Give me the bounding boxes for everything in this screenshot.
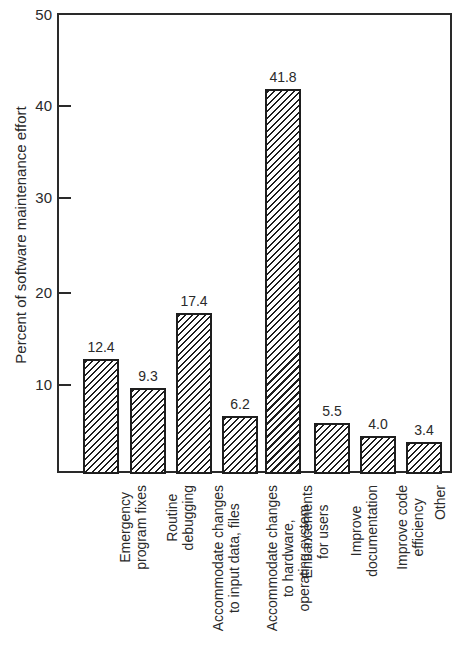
- bar-value-label: 41.8: [258, 69, 308, 85]
- x-axis-label-line: Enhancements: [299, 485, 315, 578]
- bar-value-label: 6.2: [215, 396, 265, 412]
- x-axis-label-line: to hardware,: [280, 485, 296, 631]
- bar-value-label: 5.5: [307, 403, 357, 419]
- x-axis-label-text: Emergencyprogram fixes: [117, 485, 149, 570]
- x-axis-label-line: Routine: [164, 485, 180, 550]
- x-axis-label-text: Enhancementsfor users: [299, 485, 331, 578]
- bar: [130, 388, 166, 474]
- y-axis-label: Percent of software maintenance effort: [12, 106, 29, 363]
- x-axis-label-line: Improve: [348, 485, 364, 577]
- bar-chart: Percent of software maintenance effort 1…: [0, 0, 469, 657]
- x-axis-label-line: Other: [432, 485, 448, 520]
- x-axis-label-text: Routinedebugging: [164, 485, 196, 550]
- y-tick-label: 20: [22, 285, 52, 301]
- y-tick-label: 50: [22, 7, 52, 23]
- x-axis-label-line: Emergency: [117, 485, 133, 570]
- y-tick-label: 40: [22, 98, 52, 114]
- x-axis-label-text: Accommodate changesto input data, files: [210, 485, 242, 631]
- x-axis-label-line: efficiency: [410, 485, 426, 570]
- x-axis-label-text: Other: [432, 485, 448, 520]
- bar-value-label: 12.4: [76, 339, 126, 355]
- x-axis-label-text: Improvedocumentation: [348, 485, 380, 577]
- x-axis-label-line: debugging: [180, 485, 196, 550]
- bar: [314, 423, 350, 474]
- x-axis-label-line: Improve code: [394, 485, 410, 570]
- bar-value-label: 17.4: [169, 293, 219, 309]
- bar-value-label: 3.4: [399, 422, 449, 438]
- bar-value-label: 9.3: [123, 368, 173, 384]
- x-axis-label-line: Accommodate changes: [210, 485, 226, 631]
- y-tick: [59, 105, 71, 107]
- y-tick: [59, 292, 71, 294]
- x-axis-label-line: Accommodate changes: [264, 485, 280, 631]
- bar: [360, 436, 396, 474]
- bar: [265, 89, 301, 474]
- y-tick: [59, 384, 71, 386]
- x-axis-label-line: to input data, files: [226, 485, 242, 631]
- bar: [176, 313, 212, 474]
- bar: [222, 416, 258, 474]
- x-axis-label-line: for users: [315, 485, 331, 578]
- x-axis-label-line: documentation: [364, 485, 380, 577]
- y-tick-label: 10: [22, 377, 52, 393]
- y-tick: [59, 197, 71, 199]
- x-axis-label-line: program fixes: [133, 485, 149, 570]
- bar: [83, 359, 119, 474]
- bar: [406, 442, 442, 474]
- y-tick-label: 30: [22, 190, 52, 206]
- x-axis-label-text: Improve codeefficiency: [394, 485, 426, 570]
- bar-value-label: 4.0: [353, 416, 403, 432]
